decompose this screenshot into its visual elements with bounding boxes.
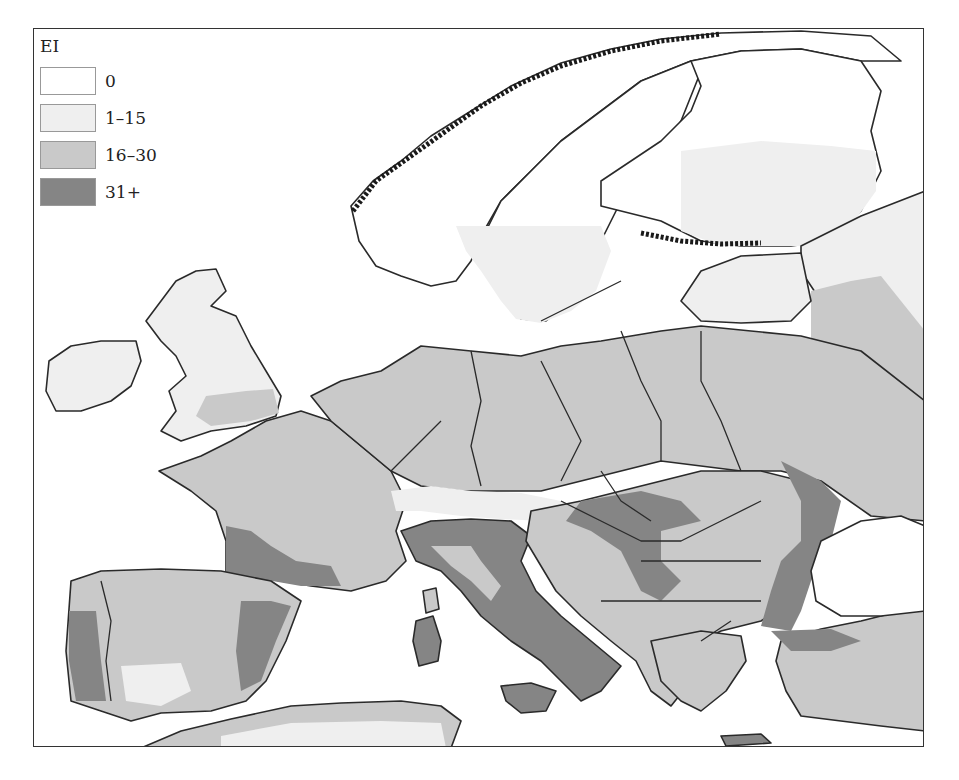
- region-baltics: [681, 253, 811, 323]
- legend-label-1-15: 1–15: [105, 108, 146, 128]
- legend-label-0: 0: [105, 71, 116, 91]
- region-corsica: [423, 588, 439, 613]
- region-ireland: [46, 341, 141, 411]
- europe-map: [34, 29, 924, 747]
- legend-item-31-plus: 31+: [40, 173, 157, 210]
- region-turkey: [776, 609, 924, 731]
- legend-item-1-15: 1–15: [40, 99, 157, 136]
- legend-swatch-1-15: [40, 104, 96, 132]
- region-sicily: [501, 683, 556, 713]
- region-sardinia: [413, 616, 441, 666]
- legend: EI 0 1–15 16–30 31+: [40, 36, 157, 210]
- region-sweden-south: [456, 226, 611, 323]
- legend-swatch-16-30: [40, 141, 96, 169]
- legend-item-16-30: 16–30: [40, 136, 157, 173]
- region-crete: [721, 734, 771, 746]
- legend-item-0: 0: [40, 62, 157, 99]
- legend-swatch-31-plus: [40, 178, 96, 206]
- map-frame: [33, 28, 924, 747]
- legend-label-31-plus: 31+: [105, 182, 141, 202]
- legend-label-16-30: 16–30: [105, 145, 157, 165]
- legend-title: EI: [40, 36, 157, 56]
- legend-swatch-0: [40, 67, 96, 95]
